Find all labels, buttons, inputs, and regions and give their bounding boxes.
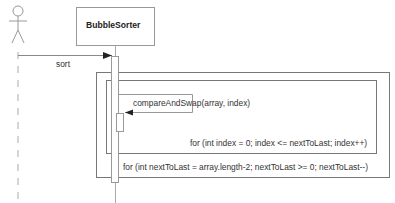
nested-activation-bar	[117, 114, 124, 132]
sort-message-label: sort	[56, 59, 70, 69]
actor-stick-figure-icon	[9, 6, 27, 43]
self-call-arrowhead-icon	[125, 110, 133, 116]
self-call-label: compareAndSwap(array, index)	[133, 98, 250, 108]
sort-arrowhead-icon	[103, 52, 112, 59]
inner-loop-guard: for (int index = 0; index <= nextToLast;…	[190, 138, 367, 148]
participant-name: BubbleSorter	[86, 20, 140, 30]
outer-loop-guard: for (int nextToLast = array.length-2; ne…	[123, 162, 368, 172]
